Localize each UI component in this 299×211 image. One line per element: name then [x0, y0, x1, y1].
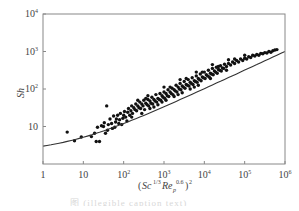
- data-point: [203, 77, 206, 80]
- data-point: [275, 48, 278, 51]
- data-point: [181, 91, 184, 94]
- data-point: [220, 69, 223, 72]
- data-point: [167, 95, 170, 98]
- y-axis-title: Sh: [15, 88, 26, 98]
- plot-frame: [43, 14, 285, 164]
- chart: 110102103104105106 10102103104 Sh ( Sc 1…: [0, 0, 299, 211]
- y-tick-label: 10: [28, 121, 38, 132]
- data-point: [164, 99, 167, 102]
- data-point: [124, 115, 127, 118]
- data-point: [118, 118, 121, 121]
- data-point: [209, 77, 212, 80]
- data-point: [114, 120, 117, 123]
- data-point: [183, 80, 186, 83]
- data-point: [135, 109, 138, 112]
- x-tick-label: 10: [78, 169, 88, 180]
- svg-text:p: p: [172, 187, 176, 193]
- data-point: [102, 125, 105, 128]
- data-point: [233, 62, 236, 65]
- data-point: [110, 122, 113, 125]
- data-point: [199, 79, 202, 82]
- data-point: [179, 88, 182, 91]
- data-point: [160, 100, 163, 103]
- data-point: [168, 85, 171, 88]
- scatter-points: [66, 48, 279, 143]
- data-point: [197, 84, 200, 87]
- data-point: [95, 140, 98, 143]
- data-point: [201, 70, 204, 73]
- data-point: [105, 104, 108, 107]
- data-point: [98, 140, 101, 143]
- data-point: [136, 99, 139, 102]
- data-point: [222, 67, 225, 70]
- data-point: [130, 115, 133, 118]
- data-point: [225, 69, 228, 72]
- data-point: [143, 108, 146, 111]
- svg-text:Re: Re: [161, 180, 173, 191]
- data-point: [191, 76, 194, 79]
- data-point: [119, 112, 122, 115]
- data-point: [172, 95, 175, 98]
- data-point: [195, 70, 198, 73]
- data-point: [243, 54, 246, 57]
- data-point: [116, 114, 119, 117]
- svg-text:2: 2: [189, 179, 192, 185]
- data-point: [216, 72, 219, 75]
- svg-text:Sc: Sc: [142, 180, 152, 191]
- data-point: [233, 57, 236, 60]
- data-point: [154, 93, 157, 96]
- svg-text:0.6: 0.6: [176, 179, 184, 185]
- y-tick-label: 104: [25, 8, 38, 19]
- data-point: [112, 114, 115, 117]
- data-point: [131, 112, 134, 115]
- data-point: [212, 73, 215, 76]
- y-tick-label: 102: [25, 83, 38, 94]
- y-tick-label: 103: [25, 46, 38, 57]
- data-point: [193, 85, 196, 88]
- data-point: [103, 121, 106, 124]
- data-point: [217, 65, 220, 68]
- data-point: [187, 84, 190, 87]
- data-point: [123, 110, 126, 113]
- data-point: [152, 105, 155, 108]
- data-point: [229, 63, 232, 66]
- data-point: [207, 69, 210, 72]
- data-point: [66, 130, 69, 133]
- x-tick-label: 102: [117, 169, 130, 180]
- data-point: [140, 112, 143, 115]
- data-point: [195, 81, 198, 84]
- data-point: [151, 102, 154, 105]
- data-point: [108, 117, 111, 120]
- x-axis-title: ( Sc 1/3 Re p 0.6 ) 2: [138, 179, 192, 193]
- data-point: [115, 117, 118, 120]
- data-point: [162, 85, 165, 88]
- data-point: [96, 126, 99, 129]
- data-point: [225, 65, 228, 68]
- data-point: [156, 103, 159, 106]
- figure-caption: 图 (illegible caption text): [70, 196, 250, 206]
- data-point: [141, 104, 144, 107]
- data-point: [189, 87, 192, 90]
- data-point: [146, 94, 149, 97]
- data-point: [176, 93, 179, 96]
- data-point: [185, 77, 188, 80]
- x-tick-label: 104: [198, 169, 211, 180]
- data-point: [227, 58, 230, 61]
- data-point: [183, 87, 186, 90]
- data-point: [178, 78, 181, 81]
- svg-text:1/3: 1/3: [153, 179, 161, 185]
- data-point: [148, 107, 151, 110]
- data-point: [211, 63, 214, 66]
- x-tick-label: 106: [279, 169, 292, 180]
- data-point: [107, 123, 110, 126]
- svg-text:): ): [185, 180, 188, 192]
- x-tick-label: 1: [41, 169, 46, 180]
- x-tick-label: 105: [238, 169, 251, 180]
- data-point: [104, 132, 107, 135]
- data-point: [237, 60, 240, 63]
- data-point: [126, 111, 129, 114]
- data-point: [139, 107, 142, 110]
